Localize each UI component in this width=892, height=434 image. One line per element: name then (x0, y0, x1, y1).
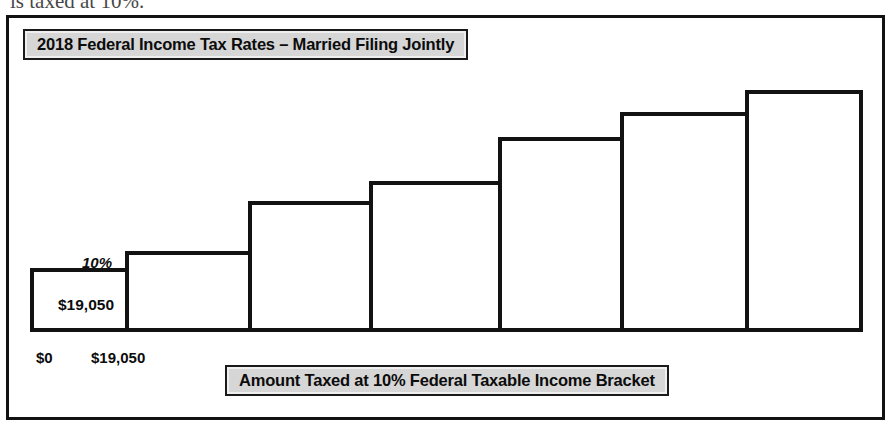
chart-title-plaque: 2018 Federal Income Tax Rates – Married … (23, 29, 468, 60)
bar-2 (127, 253, 250, 330)
axis-tick-first-threshold: $19,050 (91, 349, 145, 366)
bar-3 (250, 203, 371, 330)
chart-caption-plaque: Amount Taxed at 10% Federal Taxable Inco… (225, 365, 669, 396)
page-text-fragment: is taxed at 10%. (10, 0, 310, 9)
bracket-rate-label: 10% (57, 254, 137, 271)
bar-7 (747, 92, 861, 330)
page-title: 2018 Federal Income Tax Rates – Married … (37, 35, 454, 54)
chart-caption: Amount Taxed at 10% Federal Taxable Inco… (239, 371, 655, 390)
figure-frame: 2018 Federal Income Tax Rates – Married … (6, 15, 885, 420)
bar-4 (371, 183, 500, 330)
bar-5 (500, 139, 622, 330)
bars-group (32, 92, 861, 330)
bar-value-label: $19,050 (40, 296, 132, 314)
axis-tick-zero: $0 (36, 349, 53, 366)
bar-6 (622, 114, 747, 330)
